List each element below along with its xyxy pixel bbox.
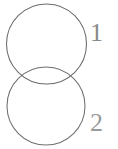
label-region-1: 1 [90,18,103,47]
label-region-2: 2 [90,108,103,137]
diagram-canvas: 1 2 [0,0,118,149]
two-circle-venn-diagram: 1 2 [0,0,118,149]
